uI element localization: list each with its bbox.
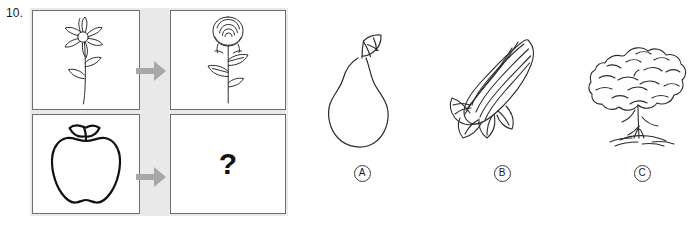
analogy-matrix: ?	[30, 8, 288, 216]
tree-icon	[582, 22, 699, 162]
matrix-cell-top-right	[170, 10, 286, 110]
corn-icon	[442, 22, 562, 162]
question-mark: ?	[170, 114, 286, 214]
answer-label-b: B	[494, 165, 511, 182]
apple-outline-icon	[33, 115, 139, 213]
answer-option-a[interactable]: A	[302, 22, 422, 182]
bottom-arrow-icon	[134, 164, 168, 190]
question-number: 10.	[6, 6, 23, 20]
answer-label-c: C	[634, 165, 651, 182]
top-arrow-icon	[134, 58, 168, 84]
answer-option-c[interactable]: C	[582, 22, 699, 182]
daisy-flower-icon	[33, 11, 139, 109]
matrix-cell-bottom-left	[32, 114, 140, 214]
rose-flower-icon	[171, 11, 285, 109]
answer-label-a: A	[354, 165, 371, 182]
matrix-cell-top-left	[32, 10, 140, 110]
worksheet-page: 10.	[0, 0, 699, 227]
answer-option-b[interactable]: B	[442, 22, 562, 182]
pear-icon	[302, 22, 422, 162]
